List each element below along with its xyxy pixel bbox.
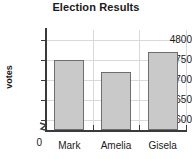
y-axis-line (45, 28, 47, 130)
y-tick-mark (41, 120, 46, 121)
x-tick-mark (186, 125, 187, 131)
y-axis-label: votes (4, 54, 14, 100)
x-tick-label: Amelia (93, 140, 140, 151)
gridline-vertical (93, 30, 94, 130)
chart-title: Election Results (0, 1, 192, 13)
y-tick-mark (41, 100, 46, 101)
bar-gisela (148, 52, 178, 130)
bar-amelia (101, 72, 131, 130)
x-tick-label: Gisela (139, 140, 186, 151)
x-tick-mark (46, 125, 47, 131)
x-axis-line (45, 130, 187, 132)
x-tick-mark (93, 125, 94, 131)
election-results-chart: Election Results votes 0 460046504700475… (0, 0, 192, 159)
y-tick-zero: 0 (26, 137, 42, 148)
x-tick-mark (139, 125, 140, 131)
gridline-vertical (139, 30, 140, 130)
y-tick-mark (41, 80, 46, 81)
y-tick-mark (41, 60, 46, 61)
bar-mark (54, 60, 84, 130)
x-tick-label: Mark (46, 140, 93, 151)
y-tick-label: 4800 (148, 35, 192, 45)
axis-break-icon (38, 120, 56, 134)
y-tick-mark (41, 40, 46, 41)
